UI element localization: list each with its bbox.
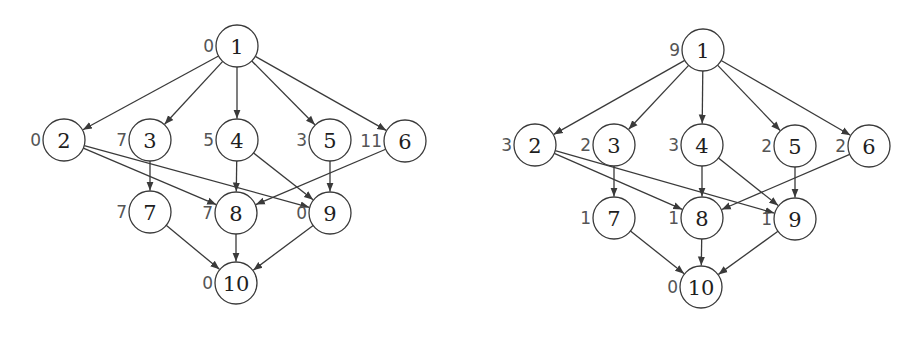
node-label: 6 [862, 135, 875, 159]
node-weight: 7 [116, 202, 127, 222]
edge-1-to-6 [721, 61, 850, 136]
edge-1-to-5 [252, 61, 315, 125]
node-label: 1 [696, 39, 709, 63]
node-weight: 9 [669, 40, 680, 60]
node-label: 2 [57, 129, 70, 153]
node-label: 4 [695, 134, 708, 158]
node-weight: 3 [296, 130, 307, 150]
node-label: 5 [788, 135, 801, 159]
node-label: 10 [223, 272, 250, 296]
node-9: 91 [761, 198, 816, 240]
edge-1-to-5 [718, 65, 781, 130]
edge-7-to-10 [166, 225, 219, 269]
node-5: 53 [296, 119, 351, 161]
nodes: 1020374553611778790100 [30, 25, 426, 304]
node-4: 45 [203, 119, 258, 161]
node-label: 5 [323, 129, 336, 153]
node-4: 43 [668, 124, 723, 166]
node-label: 8 [229, 202, 242, 226]
node-weight: 7 [202, 203, 213, 223]
node-label: 3 [143, 129, 156, 153]
node-2: 23 [501, 124, 556, 166]
node-weight: 0 [203, 36, 214, 56]
node-1: 10 [203, 25, 258, 67]
node-weight: 3 [501, 135, 512, 155]
right-task-graph: 192332435262718191100 [501, 29, 890, 308]
edge-7-to-10 [630, 231, 684, 274]
node-label: 7 [607, 207, 620, 231]
node-10: 100 [202, 262, 257, 304]
node-label: 6 [398, 130, 411, 154]
node-label: 7 [143, 201, 156, 225]
edges [554, 60, 851, 274]
edge-9-to-10 [718, 231, 778, 274]
edge-1-to-6 [255, 56, 386, 130]
node-weight: 2 [580, 135, 591, 155]
node-weight: 11 [360, 131, 382, 151]
node-9: 90 [296, 192, 351, 234]
dag-canvas: 1020374553611778790100 19233243526271819… [0, 0, 916, 356]
node-label: 4 [230, 129, 243, 153]
node-weight: 2 [761, 136, 772, 156]
edge-9-to-10 [253, 226, 313, 271]
node-7: 71 [580, 197, 635, 239]
node-7: 77 [116, 191, 171, 233]
edge-1-to-3 [165, 61, 223, 124]
edges [83, 56, 386, 270]
node-weight: 1 [668, 208, 679, 228]
node-label: 9 [788, 208, 801, 232]
node-3: 37 [116, 119, 171, 161]
node-10: 100 [667, 266, 722, 308]
node-label: 10 [688, 276, 715, 300]
edge-1-to-2 [554, 60, 685, 134]
node-label: 9 [323, 202, 336, 226]
node-2: 20 [30, 119, 85, 161]
nodes: 192332435262718191100 [501, 29, 890, 308]
node-8: 81 [668, 197, 723, 239]
node-weight: 7 [116, 130, 127, 150]
node-weight: 1 [580, 208, 591, 228]
node-weight: 0 [296, 203, 307, 223]
node-label: 8 [695, 207, 708, 231]
node-weight: 2 [835, 136, 846, 156]
node-5: 52 [761, 125, 816, 167]
dag-figure: 1020374553611778790100 19233243526271819… [0, 0, 916, 356]
node-weight: 1 [761, 209, 772, 229]
node-weight: 5 [203, 130, 214, 150]
node-weight: 3 [668, 135, 679, 155]
node-weight: 0 [30, 130, 41, 150]
node-8: 87 [202, 192, 257, 234]
node-weight: 0 [202, 273, 213, 293]
edge-2-to-9 [84, 146, 309, 208]
edge-1-to-4 [702, 71, 703, 124]
node-label: 2 [528, 134, 541, 158]
node-label: 3 [607, 134, 620, 158]
node-weight: 0 [667, 277, 678, 297]
edge-2-to-9 [555, 151, 774, 213]
left-task-graph: 1020374553611778790100 [30, 25, 426, 304]
node-label: 1 [230, 35, 243, 59]
